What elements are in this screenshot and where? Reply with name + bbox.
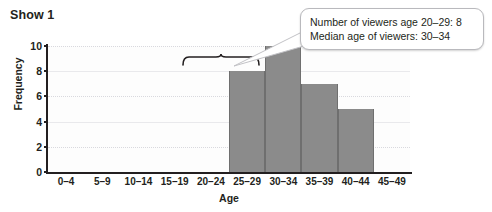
x-tick-label: 20–24 (197, 176, 225, 187)
y-tick-label: 6 (18, 90, 42, 102)
chart-title: Show 1 (10, 8, 54, 22)
x-tick-label: 5–9 (94, 176, 111, 187)
x-tick-label: 10–14 (125, 176, 153, 187)
bar (301, 84, 337, 172)
x-tick-label: 40–44 (342, 176, 370, 187)
chart-figure: Show 1 Frequency 0246810 0–45–910–1415–1… (0, 0, 492, 212)
y-tick-label: 4 (18, 116, 42, 128)
y-tick-label: 8 (18, 65, 42, 77)
x-tick-label: 30–34 (269, 176, 297, 187)
callout-box: Number of viewers age 20–29: 8 Median ag… (300, 8, 484, 50)
callout-line-1: Number of viewers age 20–29: 8 (310, 15, 475, 29)
x-axis-line (46, 172, 412, 174)
x-tick-label: 35–39 (306, 176, 334, 187)
x-tick-label: 45–49 (378, 176, 406, 187)
x-tick-label: 25–29 (233, 176, 261, 187)
callout-line-2: Median age of viewers: 30–34 (310, 29, 475, 43)
bar (229, 71, 265, 172)
x-tick-label: 15–19 (161, 176, 189, 187)
bar (338, 109, 374, 172)
y-tick-label: 2 (18, 141, 42, 153)
y-tick-label: 0 (18, 166, 42, 178)
y-tick-label: 10 (18, 40, 42, 52)
x-axis-label: Age (48, 192, 410, 204)
x-tick-label: 0–4 (58, 176, 75, 187)
